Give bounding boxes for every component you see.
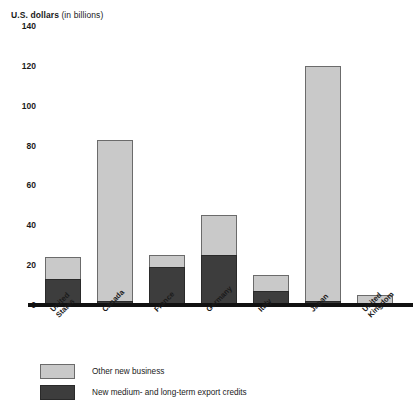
y-axis-tick-label: 20 <box>27 260 36 270</box>
y-axis-tick-label: 120 <box>22 61 36 71</box>
legend-item[interactable]: Other new business <box>40 361 247 382</box>
chart-title-bold: U.S. dollars <box>11 10 59 20</box>
chart-title: U.S. dollars (in billions) <box>11 10 103 20</box>
y-axis-tick-label: 140 <box>22 21 36 31</box>
legend-label: Other new business <box>92 367 164 376</box>
chart-legend: Other new businessNew medium- and long-t… <box>40 361 247 403</box>
y-axis-tick-label: 80 <box>27 141 36 151</box>
legend-item[interactable]: New medium- and long-term export credits <box>40 382 247 403</box>
legend-swatch-dark <box>40 385 75 400</box>
bar-segment-other-new-business <box>201 215 237 255</box>
y-axis-tick-label: 60 <box>27 180 36 190</box>
bar-segment-other-new-business <box>97 140 133 301</box>
bar-japan[interactable] <box>305 66 341 305</box>
plot-area <box>39 26 411 305</box>
legend-label: New medium- and long-term export credits <box>92 388 247 397</box>
y-axis-tick-label: 40 <box>27 220 36 230</box>
chart-title-unit: (in billions) <box>59 10 103 20</box>
y-axis: 020406080100120140 <box>0 26 36 305</box>
bar-canada[interactable] <box>97 140 133 305</box>
y-axis-tick-label: 100 <box>22 101 36 111</box>
legend-swatch-light <box>40 364 75 379</box>
bar-segment-other-new-business <box>45 257 81 279</box>
bar-segment-other-new-business <box>253 275 289 291</box>
bar-segment-other-new-business <box>305 66 341 301</box>
bar-segment-other-new-business <box>149 255 185 267</box>
x-axis-labels: UnitedStatesCanadaFranceGermanyItalyJapa… <box>39 308 411 360</box>
